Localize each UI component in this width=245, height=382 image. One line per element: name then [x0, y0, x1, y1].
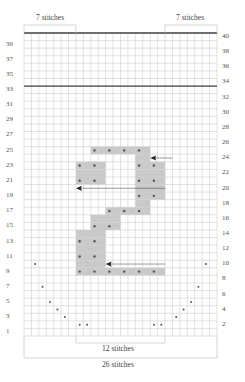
stitch-dot: [123, 270, 125, 272]
row-number-12: 12: [222, 244, 240, 252]
stitch-dot: [190, 301, 192, 303]
stitch-dot: [93, 255, 95, 257]
row-number-3: 3: [6, 312, 20, 320]
stitch-dot: [138, 195, 140, 197]
stitch-dot: [78, 164, 80, 166]
row-number-22: 22: [222, 168, 240, 176]
stitch-dot: [123, 210, 125, 212]
stitch-dot: [108, 225, 110, 227]
stitch-dot: [86, 324, 88, 326]
top-left-stitch-label: 7 stitches: [36, 13, 64, 22]
row-number-18: 18: [222, 199, 240, 207]
row-number-4: 4: [222, 305, 240, 313]
stitch-dot: [34, 263, 36, 265]
row-number-20: 20: [222, 184, 240, 192]
row-number-15: 15: [6, 221, 20, 229]
stitch-dot: [153, 195, 155, 197]
stitch-dot: [56, 308, 58, 310]
row-number-24: 24: [222, 153, 240, 161]
stitch-dot: [78, 180, 80, 182]
stitch-dot: [153, 164, 155, 166]
top-right-bracket: [165, 25, 217, 33]
grid-lines: [24, 33, 217, 336]
row-number-30: 30: [222, 108, 240, 116]
stitch-dot: [78, 255, 80, 257]
stitch-dot: [153, 270, 155, 272]
stitch-dot: [160, 324, 162, 326]
stitch-dot: [108, 149, 110, 151]
row-number-7: 7: [6, 282, 20, 290]
stitch-dot: [78, 240, 80, 242]
row-number-25: 25: [6, 146, 20, 154]
row-number-8: 8: [222, 274, 240, 282]
stitch-dot: [93, 180, 95, 182]
stitch-dot: [93, 225, 95, 227]
row-number-27: 27: [6, 130, 20, 138]
top-left-bracket: [24, 25, 76, 33]
bottom-inner-stitch-label: 12 stitches: [102, 344, 134, 353]
stitch-dot: [123, 149, 125, 151]
stitch-dot: [153, 180, 155, 182]
knitting-chart: [0, 0, 245, 382]
row-number-26: 26: [222, 138, 240, 146]
row-number-9: 9: [6, 267, 20, 275]
row-number-38: 38: [222, 47, 240, 55]
row-number-21: 21: [6, 176, 20, 184]
row-number-39: 39: [6, 40, 20, 48]
row-number-40: 40: [222, 32, 240, 40]
row-number-19: 19: [6, 191, 20, 199]
stitch-dot: [93, 270, 95, 272]
row-number-14: 14: [222, 229, 240, 237]
stitch-dot: [108, 210, 110, 212]
stitch-dot: [197, 286, 199, 288]
stitch-dot: [93, 164, 95, 166]
row-number-37: 37: [6, 55, 20, 63]
row-number-34: 34: [222, 77, 240, 85]
row-number-23: 23: [6, 161, 20, 169]
bottom-outer-stitch-label: 26 stitches: [102, 360, 134, 369]
row-number-13: 13: [6, 237, 20, 245]
row-number-10: 10: [222, 259, 240, 267]
row-number-17: 17: [6, 206, 20, 214]
row-number-33: 33: [6, 85, 20, 93]
row-number-32: 32: [222, 93, 240, 101]
stitch-dot: [138, 164, 140, 166]
row-number-1: 1: [6, 327, 20, 335]
stitch-dot: [138, 180, 140, 182]
stitch-dot: [42, 286, 44, 288]
row-number-2: 2: [222, 320, 240, 328]
row-number-16: 16: [222, 214, 240, 222]
stitch-dot: [138, 270, 140, 272]
top-right-stitch-label: 7 stitches: [176, 13, 204, 22]
stitch-dot: [175, 316, 177, 318]
stitch-dot: [49, 301, 51, 303]
row-number-36: 36: [222, 62, 240, 70]
stitch-dot: [205, 263, 207, 265]
row-number-35: 35: [6, 70, 20, 78]
row-number-28: 28: [222, 123, 240, 131]
bottom-inner-bracket: [76, 336, 165, 343]
row-number-6: 6: [222, 290, 240, 298]
stitch-dot: [79, 324, 81, 326]
stitch-dot: [64, 316, 66, 318]
stitch-dot: [153, 324, 155, 326]
stitch-dot: [93, 149, 95, 151]
row-number-11: 11: [6, 252, 20, 260]
stitch-dot: [108, 270, 110, 272]
stitch-dot: [78, 270, 80, 272]
row-number-29: 29: [6, 115, 20, 123]
stitch-dot: [93, 240, 95, 242]
row-number-31: 31: [6, 100, 20, 108]
stitch-dot: [138, 149, 140, 151]
stitch-dot: [183, 308, 185, 310]
stitch-dot: [138, 210, 140, 212]
row-number-5: 5: [6, 297, 20, 305]
